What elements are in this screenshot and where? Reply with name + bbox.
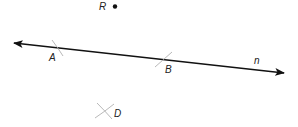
label-a: A (48, 52, 56, 63)
geometry-diagram: R A B n D (0, 0, 298, 127)
label-d: D (114, 108, 121, 119)
point-r-dot (113, 4, 117, 8)
arc-d-2 (95, 104, 114, 118)
label-n: n (254, 55, 260, 66)
label-b: B (165, 64, 172, 75)
diagram-svg: R A B n D (0, 0, 298, 127)
label-r: R (99, 1, 106, 12)
